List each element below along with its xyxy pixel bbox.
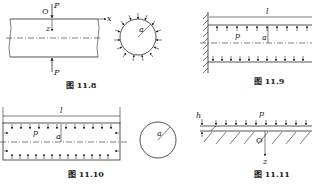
figure-11-11: h p O z 图 11 xyxy=(196,109,312,179)
length-label: l xyxy=(60,106,63,115)
circle-radius-label: a xyxy=(157,129,162,138)
length-label: l xyxy=(266,7,269,16)
figure-11-9: l xyxy=(200,7,312,86)
caption-11-11: 图 11.11 xyxy=(254,169,290,179)
z-axis-label: z xyxy=(45,24,51,33)
pressure-label: p xyxy=(259,109,264,118)
origin-label: O xyxy=(42,7,49,16)
figure-11-8: O P x z P a 图 11.8 xyxy=(6,1,162,90)
figure-11-10: l xyxy=(0,106,176,179)
force-top-label: P xyxy=(53,1,60,10)
pressure-label: p xyxy=(235,31,240,40)
z-axis-label: z xyxy=(262,157,268,166)
origin-label: O xyxy=(256,136,263,145)
figures-canvas: O P x z P a 图 11.8 xyxy=(0,0,312,188)
caption-11-9: 图 11.9 xyxy=(254,76,285,86)
radius-label: a xyxy=(262,33,267,42)
pressure-label: p xyxy=(33,128,38,137)
caption-11-10: 图 11.10 xyxy=(68,169,104,179)
force-bottom-label: P xyxy=(53,68,60,77)
radius-label: a xyxy=(56,132,61,141)
radius-label: a xyxy=(139,25,144,34)
caption-11-8: 图 11.8 xyxy=(66,80,97,90)
thickness-label: h xyxy=(196,111,201,120)
x-axis-label: x xyxy=(107,14,112,23)
